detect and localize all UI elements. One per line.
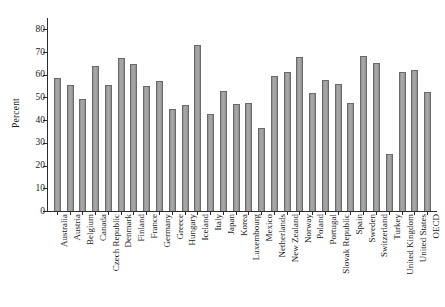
bar-slot	[421, 18, 434, 211]
bar-slot	[268, 18, 281, 211]
bar	[143, 86, 150, 211]
bar	[284, 72, 291, 211]
bar-slot	[345, 18, 358, 211]
x-label-slot: Luxembourg	[242, 214, 255, 306]
bar	[399, 72, 406, 211]
bar	[233, 104, 240, 211]
y-tick-label: 50	[36, 91, 46, 103]
bar-slot	[230, 18, 243, 211]
bar-slot	[166, 18, 179, 211]
bar	[67, 85, 74, 211]
bar-slot	[332, 18, 345, 211]
bar	[386, 154, 393, 211]
bar	[182, 105, 189, 211]
bar	[373, 63, 380, 211]
bar-slot	[153, 18, 166, 211]
bar-slot	[51, 18, 64, 211]
bar-slot	[383, 18, 396, 211]
x-label-slot: Hungary	[178, 214, 191, 306]
x-tick-label: OECD	[432, 214, 441, 239]
bar	[54, 78, 61, 212]
bar	[335, 84, 342, 211]
x-label-slot: France	[140, 214, 153, 306]
x-label-slot: Norway	[293, 214, 306, 306]
bar	[169, 109, 176, 211]
y-tick-label: 30	[36, 136, 46, 148]
x-label-slot: Canada	[88, 214, 101, 306]
bar-slot	[242, 18, 255, 211]
x-label-slot: Finland	[127, 214, 140, 306]
bar-slot	[357, 18, 370, 211]
bar	[258, 128, 265, 211]
bar-slot	[396, 18, 409, 211]
bar-slot	[319, 18, 332, 211]
x-label-slot: Turkey	[383, 214, 396, 306]
y-tick-label: 20	[36, 159, 46, 171]
y-axis-label: Percent	[8, 78, 24, 148]
bar	[156, 81, 163, 211]
bar	[424, 92, 431, 211]
bar-slot	[77, 18, 90, 211]
bar-slot	[89, 18, 102, 211]
bar-slot	[217, 18, 230, 211]
bar	[194, 45, 201, 211]
y-axis-label-text: Percent	[11, 98, 21, 128]
x-label-slot: Mexico	[255, 214, 268, 306]
bar	[79, 99, 86, 211]
x-label-slot: Greece	[165, 214, 178, 306]
x-label-slot: Netherlands	[268, 214, 281, 306]
y-tick-label: 60	[36, 68, 46, 80]
bar-slot	[370, 18, 383, 211]
bar-slot	[204, 18, 217, 211]
bar-slot	[179, 18, 192, 211]
y-tick-label: 10	[36, 182, 46, 194]
y-tick-label: 80	[36, 23, 46, 35]
y-tick-label: 0	[40, 205, 45, 217]
x-label-slot: Denmark	[114, 214, 127, 306]
bar	[92, 66, 99, 211]
bar-slot	[306, 18, 319, 211]
x-label-slot: Poland	[306, 214, 319, 306]
bar-slot	[191, 18, 204, 211]
x-label-slot: New Zealand	[280, 214, 293, 306]
x-axis-category-labels: AustraliaAustriaBelgiumCanadaCzech Repub…	[47, 214, 437, 306]
x-label-slot: Belgium	[76, 214, 89, 306]
bar-slot	[140, 18, 153, 211]
x-label-slot: Sweden	[357, 214, 370, 306]
x-label-slot: Spain	[344, 214, 357, 306]
plot-area: 01020304050607080	[47, 18, 437, 212]
bar	[105, 85, 112, 211]
x-label-slot: Czech Republic	[101, 214, 114, 306]
x-label-slot: Slovak Republic	[332, 214, 345, 306]
bar	[118, 58, 125, 211]
bar	[207, 114, 214, 211]
x-label-slot: Switzerland	[370, 214, 383, 306]
bar-chart-figure: Percent 01020304050607080 AustraliaAustr…	[0, 0, 445, 307]
bar-slot	[408, 18, 421, 211]
x-label-slot: Germany	[152, 214, 165, 306]
x-label-slot: Italy	[204, 214, 217, 306]
bar	[245, 103, 252, 211]
bar-slot	[255, 18, 268, 211]
bar	[271, 76, 278, 211]
x-label-slot: Austria	[63, 214, 76, 306]
x-label-slot: United Kingdom	[396, 214, 409, 306]
x-label-slot: Korea	[229, 214, 242, 306]
bar-slot	[128, 18, 141, 211]
bar	[360, 56, 367, 211]
bar	[309, 93, 316, 211]
x-label-slot: OECD	[421, 214, 434, 306]
x-label-slot: Australia	[50, 214, 63, 306]
bar	[130, 64, 137, 211]
bar-slot	[294, 18, 307, 211]
x-label-slot: Japan	[216, 214, 229, 306]
bar	[296, 57, 303, 211]
x-label-slot: United States	[408, 214, 421, 306]
x-label-slot: Portugal	[319, 214, 332, 306]
bar-slot	[102, 18, 115, 211]
bar	[411, 70, 418, 211]
y-tick-label: 70	[36, 46, 46, 58]
bar-slot	[281, 18, 294, 211]
y-tick-label: 40	[36, 114, 46, 126]
bar-slot	[64, 18, 77, 211]
